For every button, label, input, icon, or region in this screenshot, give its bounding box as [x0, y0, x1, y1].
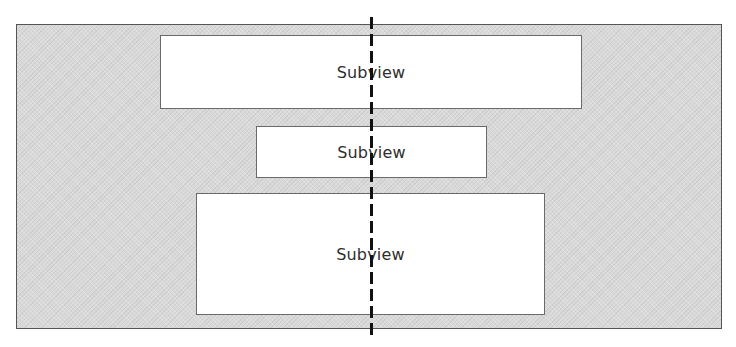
center-alignment-dashed-line [370, 17, 373, 339]
